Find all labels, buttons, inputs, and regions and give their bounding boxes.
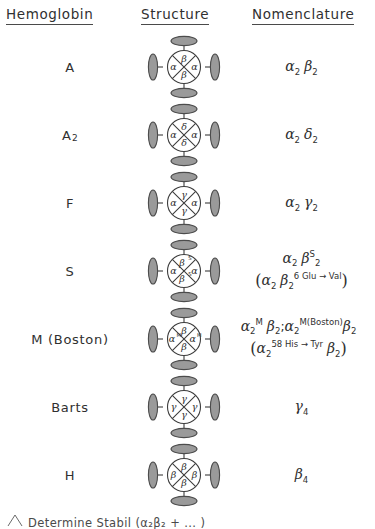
- hemoglobin-name-cell: H: [0, 441, 140, 509]
- lobe-bottom-icon: [171, 156, 197, 165]
- gamma-subscript: 4: [303, 407, 308, 417]
- heme-triangle-icon: [6, 513, 28, 529]
- subunit-right-label: α: [191, 129, 198, 140]
- subunit-top-label: γ: [181, 189, 187, 200]
- variant-superscript: M(Boston): [299, 317, 342, 327]
- subunit-bottom-label: γ: [181, 409, 187, 420]
- structure-cell: β β α M α M: [140, 305, 228, 373]
- lobe-bottom-icon: [171, 496, 197, 505]
- hemoglobin-name-label: F: [66, 196, 74, 211]
- table-row: H β β β β β4: [0, 441, 375, 509]
- lobe-bottom-icon: [171, 428, 197, 437]
- subunit-right-superscript: M: [197, 332, 202, 338]
- table-row: M (Boston) β β α M α M: [0, 305, 375, 373]
- subunit-left-label: α: [170, 129, 177, 140]
- subunit-right-label: α: [191, 61, 198, 72]
- table-row: A β β α α α2 β2: [0, 33, 375, 101]
- subunit-bottom-label: β: [180, 341, 187, 352]
- lobe-right-icon: [210, 190, 219, 216]
- lobe-right-icon: [210, 394, 219, 420]
- beta-subscript: 2: [275, 326, 280, 336]
- lobe-top-icon: [171, 240, 197, 249]
- alpha-subscript: 2: [250, 326, 255, 336]
- lobe-right-icon: [210, 326, 219, 352]
- lobe-left-icon: [148, 258, 157, 284]
- footnote-text: Determine Stabil (α₂β₂ + ... ): [28, 516, 205, 529]
- tetramer-diagram: γ γ γ γ: [145, 373, 223, 441]
- table-row: A2 δ δ α α α2 δ2: [0, 101, 375, 169]
- subunit-right-label: α: [191, 265, 198, 276]
- subunit-left-label: α: [169, 333, 176, 344]
- nomenclature-line: α2 δ2: [285, 124, 318, 146]
- nomenclature-line: α2 βS2: [283, 248, 321, 270]
- lobe-right-icon: [210, 54, 219, 80]
- structure-cell: β β β β: [140, 441, 228, 509]
- subunit-top-label: δ: [181, 121, 187, 132]
- lobe-left-icon: [148, 122, 157, 148]
- subunit-top-label: β: [178, 257, 185, 268]
- table-header: Hemoglobin Structure Nomenclature: [0, 4, 375, 30]
- subunit-top-label: β: [180, 53, 187, 64]
- lobe-left-icon: [148, 190, 157, 216]
- lobe-top-icon: [171, 444, 197, 453]
- gamma-subscript: 2: [312, 203, 317, 213]
- tetramer-diagram: β β α α: [145, 33, 223, 101]
- hemoglobin-name-label: S: [66, 264, 75, 279]
- lobe-top-icon: [171, 36, 197, 45]
- subunit-left-label: α: [170, 61, 177, 72]
- hemoglobin-name-cell: S: [0, 237, 140, 305]
- structure-cell: γ γ α α: [140, 169, 228, 237]
- alpha-subscript: 2: [271, 281, 276, 291]
- hemoglobin-name-cell: Barts: [0, 373, 140, 441]
- beta-glyph: β: [343, 318, 351, 334]
- nomenclature-line: (α258 His → Tyr β2): [250, 337, 347, 362]
- nomenclature-line: α2 γ2: [285, 192, 318, 214]
- subunit-bottom-label: β: [178, 273, 185, 284]
- beta-glyph: β: [327, 340, 335, 356]
- paren-close: ): [342, 271, 348, 290]
- subunit-top-label: β: [180, 325, 187, 336]
- column-header-nomenclature: Nomenclature: [252, 6, 354, 25]
- alpha-glyph: α: [241, 318, 250, 334]
- lobe-right-icon: [210, 122, 219, 148]
- tetramer-diagram: δ δ α α: [145, 101, 223, 169]
- subunit-left-label: β: [170, 469, 177, 480]
- hemoglobin-name-label: A: [65, 60, 75, 75]
- structure-cell: β β α α: [140, 33, 228, 101]
- table-row: S β S β S α α α2 βS2: [0, 237, 375, 305]
- lobe-left-icon: [148, 394, 157, 420]
- subunit-left-label: α: [170, 197, 177, 208]
- nomenclature-line: β4: [295, 464, 309, 486]
- subunit-right-label: α: [191, 197, 198, 208]
- subunit-top-label: γ: [181, 393, 187, 404]
- beta-subscript: 2: [315, 258, 320, 268]
- alpha-subscript: 2: [295, 67, 300, 77]
- lobe-left-icon: [148, 462, 157, 488]
- paren-close: ): [341, 339, 347, 358]
- footnote: Determine Stabil (α₂β₂ + ... ): [6, 513, 375, 529]
- delta-subscript: 2: [312, 135, 317, 145]
- lobe-bottom-icon: [171, 224, 197, 233]
- alpha-subscript: 2: [266, 349, 271, 359]
- nomenclature-cell: α2 δ2: [228, 101, 375, 169]
- subunit-bottom-label: δ: [181, 137, 187, 148]
- lobe-top-icon: [171, 376, 197, 385]
- beta-subscript: 4: [303, 475, 308, 485]
- alpha-subscript: 2: [294, 326, 299, 336]
- gamma-glyph: γ: [295, 398, 303, 414]
- hemoglobin-name-cell: F: [0, 169, 140, 237]
- column-header-hemoglobin: Hemoglobin: [6, 6, 93, 25]
- nomenclature-line: α2M β2;α2M(Boston)β2: [241, 316, 357, 338]
- hemoglobin-name-subscript: 2: [72, 133, 78, 143]
- alpha-subscript: 2: [295, 135, 300, 145]
- hemoglobin-name-cell: M (Boston): [0, 305, 140, 373]
- hemoglobin-name-label: A: [62, 128, 72, 143]
- mutation-superscript: 58 His → Tyr: [271, 339, 323, 349]
- alpha-subscript: 2: [292, 258, 297, 268]
- lobe-top-icon: [171, 308, 197, 317]
- subunit-bottom-label: β: [180, 69, 187, 80]
- alpha-glyph: α: [261, 272, 270, 288]
- nomenclature-cell: γ4: [228, 373, 375, 441]
- lobe-bottom-icon: [171, 360, 197, 369]
- beta-subscript: 2: [335, 349, 340, 359]
